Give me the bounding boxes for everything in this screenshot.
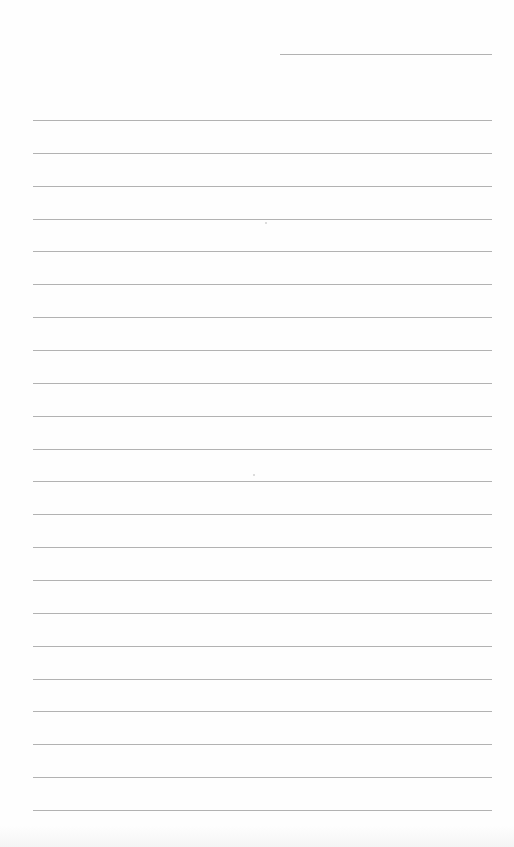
header-date-line: [280, 54, 492, 55]
ruled-line: [33, 383, 492, 384]
ruled-line: [33, 547, 492, 548]
ruled-line: [33, 711, 492, 712]
ruled-line: [33, 580, 492, 581]
ruled-line: [33, 153, 492, 154]
ruled-line: [33, 350, 492, 351]
ruled-line: [33, 120, 492, 121]
ruled-line: [33, 449, 492, 450]
ruled-line: [33, 646, 492, 647]
bleed-through-band: [0, 826, 514, 847]
ruled-line: [33, 416, 492, 417]
ruled-line: [33, 613, 492, 614]
ruled-line: [33, 744, 492, 745]
ruled-line: [33, 810, 492, 811]
ruled-line: [33, 284, 492, 285]
paper-speck: [253, 474, 255, 476]
paper-speck: [265, 222, 267, 224]
ruled-line: [33, 186, 492, 187]
ruled-line: [33, 679, 492, 680]
lined-page: [0, 0, 514, 847]
ruled-line: [33, 219, 492, 220]
ruled-line: [33, 317, 492, 318]
ruled-line: [33, 251, 492, 252]
ruled-line: [33, 777, 492, 778]
ruled-line: [33, 514, 492, 515]
ruled-line: [33, 481, 492, 482]
